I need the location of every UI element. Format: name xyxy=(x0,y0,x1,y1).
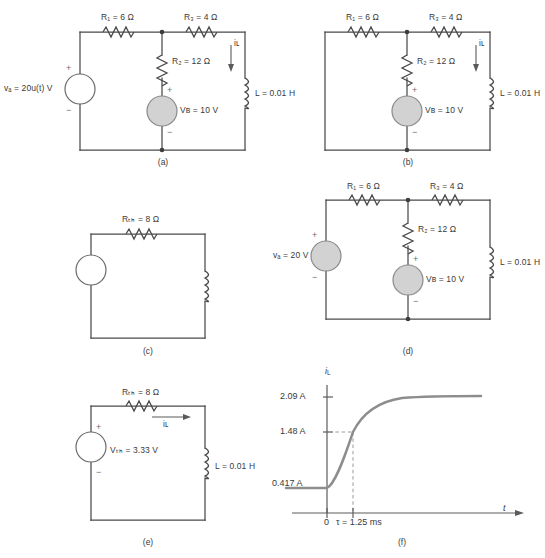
panel-d-schematic xyxy=(272,180,545,355)
y-tick-label-209: 2.09 A xyxy=(280,391,306,401)
panel-b-current-label: iʟ xyxy=(479,38,485,48)
panel-d-r1-label: R₁ = 6 Ω xyxy=(347,181,380,191)
x-axis-arrowhead xyxy=(515,510,524,516)
panel-b-vb-plus: + xyxy=(412,86,417,95)
panel-a-va-minus: − xyxy=(66,106,71,115)
panel-b-vb-minus: − xyxy=(412,128,417,137)
panel-d-va-plus: + xyxy=(312,231,317,240)
y-tick-label-0417: 0.417 A xyxy=(272,478,303,488)
panel-d-r2-label: R₂ = 12 Ω xyxy=(418,224,456,234)
panel-b-caption: (b) xyxy=(388,157,428,167)
panel-c-caption: (c) xyxy=(128,346,168,356)
panel-d-caption: (d) xyxy=(388,346,428,356)
panel-f-graph: iL 2.09 A 1.48 A 0.417 A 0 τ = 1.25 ms t… xyxy=(272,365,545,558)
panel-c-rth-label: Rₜₕ = 8 Ω xyxy=(122,214,159,224)
voltage-source-vb-symbol xyxy=(392,96,422,126)
panel-d-circuit: R₁ = 6 Ω R₃ = 4 Ω R₂ = 12 Ω vₐ = 20 V Vʙ… xyxy=(272,180,545,365)
panel-d-vb-plus: + xyxy=(413,255,418,264)
panel-e-caption: (e) xyxy=(128,537,168,547)
tau-label: τ = 1.25 ms xyxy=(336,517,382,527)
voltage-source-vth-symbol xyxy=(76,255,106,285)
panel-a-va-plus: + xyxy=(66,64,71,73)
panel-a-r1-label: R₁ = 6 Ω xyxy=(101,12,134,22)
panel-a-vb-plus: + xyxy=(167,86,172,95)
x-axis-label: t xyxy=(503,503,506,513)
panel-b-r3-label: R₃ = 4 Ω xyxy=(429,12,463,22)
panel-a-vb-minus: − xyxy=(167,128,172,137)
panel-d-vb-label: Vʙ = 10 V xyxy=(426,274,464,284)
panel-e-circuit: Rₜₕ = 8 Ω Vₜₕ = 16.7 V L = 0.01 H iʟ + −… xyxy=(0,365,272,558)
panel-b-inductor-label: L = 0.01 H xyxy=(500,88,540,98)
panel-c-circuit: Rₜₕ = 8 Ω Vₜₕ = 3.33 V L = 0.01 H + − (c… xyxy=(0,180,272,365)
current-response-curve xyxy=(286,396,481,488)
panel-b-vb-label: Vʙ = 10 V xyxy=(425,105,463,115)
panel-c-schematic xyxy=(0,180,272,355)
panel-a-vb-label: Vʙ = 10 V xyxy=(180,105,218,115)
panel-f-caption: (f) xyxy=(382,537,422,547)
voltage-source-vb-symbol xyxy=(393,265,423,295)
panel-a-r2-label: R₂ = 12 Ω xyxy=(172,56,210,66)
panel-a-caption: (a) xyxy=(143,157,183,167)
panel-b-r1-label: R₁ = 6 Ω xyxy=(346,12,379,22)
transient-response-plot xyxy=(272,365,545,550)
panel-e-rth-label: Rₜₕ = 8 Ω xyxy=(122,387,159,397)
y-axis-label: iL xyxy=(325,366,331,376)
voltage-source-va-symbol xyxy=(311,241,341,271)
voltage-source-vb-symbol xyxy=(147,96,177,126)
panel-a-circuit: R₁ = 6 Ω R₃ = 4 Ω R₂ = 12 Ω vₐ = 20u(t) … xyxy=(0,0,272,180)
y-tick-label-148: 1.48 A xyxy=(280,426,306,436)
panel-a-current-label: iʟ xyxy=(234,38,240,48)
panel-b-r2-label: R₂ = 12 Ω xyxy=(417,56,455,66)
panel-b-circuit: R₁ = 6 Ω R₃ = 4 Ω R₂ = 12 Ω Vʙ = 10 V L … xyxy=(272,0,545,180)
panel-d-va-minus: − xyxy=(312,273,317,282)
voltage-source-vth-symbol xyxy=(76,432,106,462)
panel-d-inductor-label: L = 0.01 H xyxy=(500,257,540,267)
panel-a-va-label: vₐ = 20u(t) V xyxy=(4,83,53,93)
x-origin-label: 0 xyxy=(324,517,329,527)
panel-d-vb-minus: − xyxy=(413,297,418,306)
panel-d-r3-label: R₃ = 4 Ω xyxy=(430,181,464,191)
panel-b-schematic xyxy=(272,0,545,172)
panel-e-current-label: iʟ xyxy=(163,419,169,429)
voltage-source-va-symbol xyxy=(65,74,95,104)
panel-a-r3-label: R₃ = 4 Ω xyxy=(184,12,218,22)
panel-d-va-label: vₐ = 20 V xyxy=(273,250,309,260)
